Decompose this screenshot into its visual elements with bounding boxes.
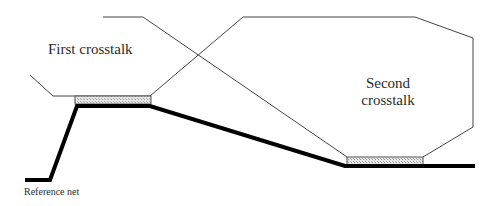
reference-net-wire [25,106,475,180]
coupling-region-1 [75,96,151,104]
second-aggressor-net [103,17,347,157]
reference-net-label: Reference net [24,187,79,197]
second-crosstalk-label-line1: Second [350,75,426,92]
first-crosstalk-label: First crosstalk [48,42,133,57]
second-crosstalk-label: Second crosstalk [350,75,426,109]
second-crosstalk-label-line2: crosstalk [350,92,426,109]
